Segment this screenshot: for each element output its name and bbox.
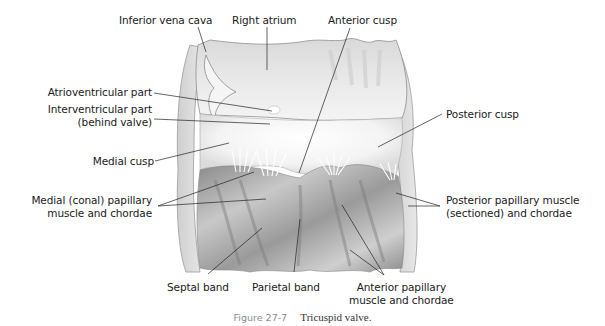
figure-number: Figure 27-7 [234,312,288,323]
label-medial-papillary-line2: muscle and chordae [31,207,152,220]
label-posterior-cusp: Posterior cusp [446,108,519,121]
label-anterior-papillary-line1: Anterior papillary [349,281,454,294]
tricuspid-valve-figure: Inferior vena cava Right atrium Anterior… [0,0,605,326]
label-anterior-papillary: Anterior papillary muscle and chordae [349,281,454,307]
label-posterior-papillary-line2: (sectioned) and chordae [446,207,579,220]
label-posterior-papillary: Posterior papillary muscle (sectioned) a… [446,194,579,220]
label-medial-papillary-line1: Medial (conal) papillary [31,194,152,207]
right-atrium-shape [196,38,407,120]
label-posterior-papillary-line1: Posterior papillary muscle [446,194,579,207]
label-parietal-band: Parietal band [252,281,320,294]
label-interventricular-line2: (behind valve) [48,116,152,129]
heart-illustration [0,0,605,326]
label-septal-band: Septal band [167,281,229,294]
label-anterior-cusp: Anterior cusp [328,14,397,27]
figure-caption-text: Tricuspid valve. [300,311,371,323]
label-right-atrium: Right atrium [232,14,296,27]
label-medial-cusp: Medial cusp [93,155,154,168]
label-medial-papillary: Medial (conal) papillary muscle and chor… [31,194,152,220]
figure-caption: Figure 27-7 Tricuspid valve. [0,311,605,323]
label-interventricular-line1: Interventricular part [48,103,152,116]
label-interventricular-part: Interventricular part (behind valve) [48,103,152,129]
label-atrioventricular-part: Atrioventricular part [48,86,152,99]
label-inferior-vena-cava: Inferior vena cava [119,14,212,27]
label-anterior-papillary-line2: muscle and chordae [349,294,454,307]
